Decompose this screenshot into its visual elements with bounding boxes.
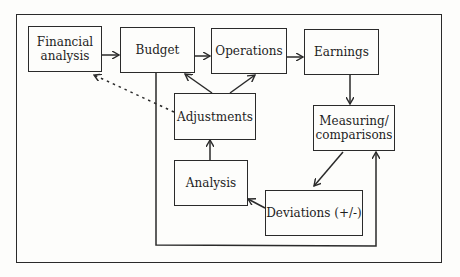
node-budget: Budget — [120, 27, 195, 73]
node-measuring-comparisons: Measuring/ comparisons — [313, 105, 395, 151]
node-adjustments: Adjustments — [174, 93, 256, 140]
node-deviations: Deviations (+/-) — [265, 190, 363, 236]
dotted-arrow-adjustments-to-financial — [94, 75, 174, 112]
node-financial-analysis: Financial analysis — [28, 26, 102, 72]
arrow-adjustments-to-operations — [230, 75, 255, 93]
arrow-deviations-to-analysis — [248, 199, 265, 208]
node-analysis: Analysis — [174, 160, 248, 206]
node-operations: Operations — [211, 28, 287, 74]
arrow-adjustments-to-budget — [185, 74, 212, 93]
arrow-measuring-to-deviations — [314, 152, 343, 186]
node-earnings: Earnings — [304, 29, 379, 75]
